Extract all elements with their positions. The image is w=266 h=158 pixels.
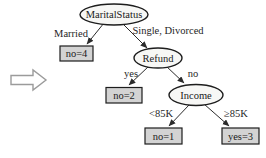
- refund-label: Refund: [143, 53, 175, 64]
- leaf-no4-label: no=4: [66, 48, 88, 59]
- edge-label-yes: yes: [124, 68, 138, 79]
- leaf-yes3-label: yes=3: [228, 131, 253, 142]
- leaf-no1: no=1: [145, 128, 182, 144]
- edge-label-single-divorced: Single, Divorced: [132, 25, 204, 36]
- node-marital-status: MaritalStatus: [80, 4, 148, 25]
- right-arrow-icon: [11, 70, 46, 90]
- edge-label-lt85k: <85K: [149, 108, 173, 119]
- edge-label-married: Married: [54, 28, 89, 39]
- decision-tree-canvas: Married Single, Divorced yes no <85K ≥85…: [0, 0, 266, 158]
- leaf-yes3: yes=3: [222, 128, 259, 144]
- edge-refund-to-income: [166, 66, 184, 83]
- decision-tree-figure: Married Single, Divorced yes no <85K ≥85…: [0, 0, 266, 158]
- edge-label-no: no: [188, 68, 199, 79]
- leaf-no2: no=2: [106, 88, 142, 104]
- edge-label-gte85k: ≥85K: [224, 108, 248, 119]
- marital-status-label: MaritalStatus: [86, 9, 143, 20]
- income-label: Income: [180, 90, 212, 101]
- node-income: Income: [169, 85, 223, 106]
- leaf-no4: no=4: [60, 46, 93, 61]
- edge-root-to-married-leaf: [87, 23, 104, 44]
- leaf-no1-label: no=1: [153, 131, 175, 142]
- node-refund: Refund: [134, 48, 182, 68]
- leaf-no2-label: no=2: [113, 90, 135, 101]
